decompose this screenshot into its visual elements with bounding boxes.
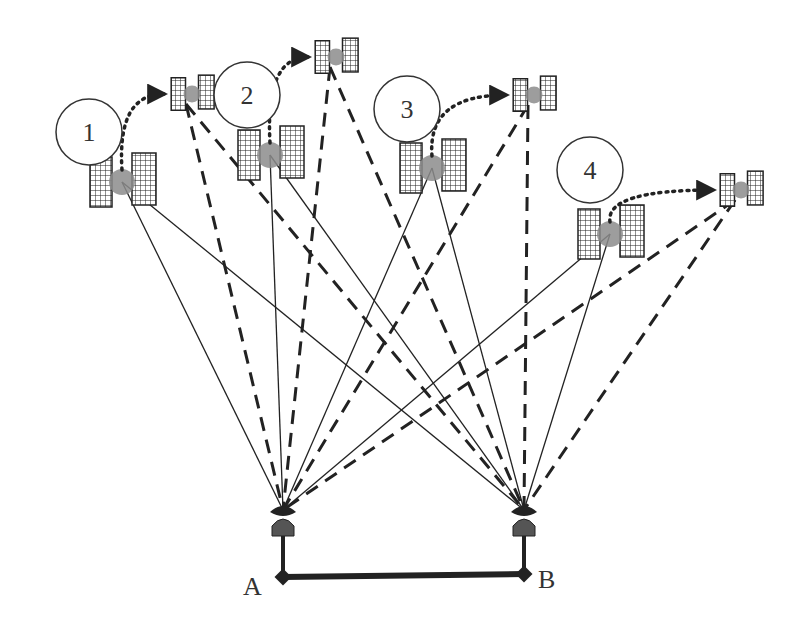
- solar-panel: [343, 38, 359, 72]
- satellite-body: [184, 86, 201, 103]
- solar-panel: [280, 126, 304, 178]
- dish-icon: [511, 506, 537, 516]
- satellite-body: [328, 49, 345, 66]
- terrestrial-link: [283, 574, 524, 577]
- current-link: [270, 155, 524, 510]
- station-node: [516, 566, 533, 583]
- satellite-body: [257, 142, 283, 168]
- satellite-number: 1: [83, 118, 96, 147]
- satellites: 1234: [56, 38, 763, 259]
- current-link: [122, 182, 283, 510]
- solar-panel: [578, 209, 600, 259]
- station-label-a: A: [243, 572, 262, 601]
- satellite-number: 2: [241, 81, 254, 110]
- solar-panel: [132, 153, 156, 205]
- diagram-canvas: 1234 AB: [0, 0, 806, 633]
- solar-panel: [171, 78, 185, 111]
- dish-icon: [270, 506, 296, 516]
- current-link: [432, 168, 524, 510]
- solar-panel: [513, 79, 527, 112]
- current-link: [283, 234, 610, 510]
- current-link: [122, 182, 524, 510]
- satellite-body: [733, 182, 750, 199]
- satellite-3-future: [513, 76, 556, 111]
- station-node: [275, 569, 292, 586]
- solar-panel: [748, 171, 764, 205]
- ground-stations: AB: [243, 506, 555, 601]
- satellite-body: [526, 87, 543, 104]
- current-link: [283, 168, 432, 510]
- solar-panel: [400, 143, 422, 193]
- solar-panel: [238, 130, 260, 180]
- satellite-body: [109, 169, 135, 195]
- satellite-body: [597, 221, 623, 247]
- solar-panel: [442, 139, 466, 191]
- current-link: [270, 155, 283, 510]
- satellite-2-future: [315, 38, 358, 73]
- ground-antenna-icon: [513, 519, 535, 536]
- satellite-number: 3: [401, 95, 414, 124]
- current-link: [524, 234, 610, 510]
- solar-panel: [620, 205, 644, 257]
- satellite-4-future: [720, 171, 763, 206]
- handover-link: [524, 105, 528, 510]
- solar-panel: [199, 75, 215, 109]
- solar-panel: [720, 174, 734, 207]
- solar-panel: [315, 41, 329, 74]
- solar-panel: [541, 76, 557, 110]
- satellite-number: 4: [584, 156, 597, 185]
- station-label-b: B: [538, 565, 555, 594]
- ground-antenna-icon: [272, 519, 294, 536]
- satellite-body: [419, 155, 445, 181]
- satellite-1-future: [171, 75, 214, 110]
